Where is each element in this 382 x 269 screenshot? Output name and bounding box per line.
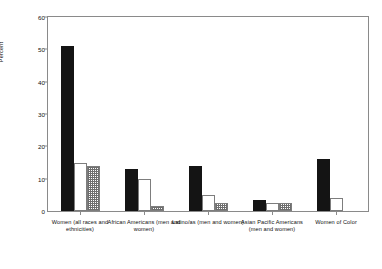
bar — [253, 200, 266, 211]
bar — [74, 163, 87, 212]
y-tick-label-30: 30 — [0, 111, 45, 118]
bars-layer — [48, 17, 368, 211]
x-tick-mark — [208, 212, 209, 215]
x-tick-mark — [272, 212, 273, 215]
bar — [87, 166, 100, 211]
bar-chart: Percent 1020304050600 Women (all races a… — [0, 0, 382, 269]
y-tick-label-60: 60 — [0, 14, 45, 21]
y-tick-label-50: 50 — [0, 46, 45, 53]
bar — [125, 169, 138, 211]
bar — [151, 206, 164, 211]
bar-group — [240, 17, 304, 211]
y-tick-mark-10 — [44, 178, 47, 179]
bar — [279, 203, 292, 211]
bar — [202, 195, 215, 211]
bar-group — [112, 17, 176, 211]
bar — [215, 203, 228, 211]
bar — [138, 179, 151, 211]
y-tick-label-10: 10 — [0, 175, 45, 182]
y-tick-mark-30 — [44, 114, 47, 115]
y-tick-label-0: 0 — [0, 208, 45, 215]
bar — [189, 166, 202, 211]
y-tick-label-20: 20 — [0, 143, 45, 150]
y-tick-mark-40 — [44, 81, 47, 82]
y-tick-mark-60 — [44, 17, 47, 18]
bar-group — [176, 17, 240, 211]
y-tick-mark-20 — [44, 146, 47, 147]
x-tick-mark — [336, 212, 337, 215]
bar-group — [48, 17, 112, 211]
bar — [317, 159, 330, 211]
y-tick-mark-50 — [44, 49, 47, 50]
bar — [266, 203, 279, 211]
bar — [330, 198, 343, 211]
bar — [61, 46, 74, 211]
y-tick-label-40: 40 — [0, 78, 45, 85]
x-tick-mark — [144, 212, 145, 215]
bar-group — [304, 17, 368, 211]
x-tick-mark — [80, 212, 81, 215]
x-axis-label: Women of Color — [298, 219, 374, 226]
